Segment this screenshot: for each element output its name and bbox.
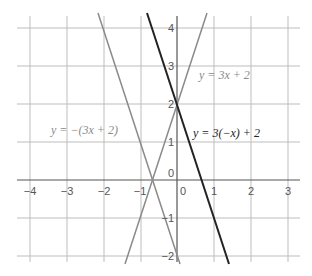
x-tick: 3: [285, 185, 291, 197]
x-tick: −1: [134, 185, 147, 197]
x-tick: −2: [98, 185, 111, 197]
x-tick: 2: [248, 185, 254, 197]
x-tick: 0: [180, 185, 186, 197]
y-tick: −2: [161, 250, 174, 262]
y-tick: 4: [168, 22, 174, 34]
y-tick: 0: [168, 167, 174, 179]
y-tick: −1: [161, 212, 174, 224]
label-y-3x-plus-2: y = 3x + 2: [198, 68, 250, 82]
x-tick: 1: [211, 185, 217, 197]
y-tick: 3: [168, 60, 174, 72]
label-y-neg-3x-plus-2: y = −(3x + 2): [50, 123, 118, 137]
x-tick: −4: [24, 185, 37, 197]
x-tick: −3: [61, 185, 74, 197]
y-tick: 1: [168, 136, 174, 148]
graph-canvas: −4 −3 −2 −1 0 1 2 3 4 3 2 1 0 −1 −2 y = …: [0, 0, 312, 276]
y-tick: 2: [168, 98, 174, 110]
label-y-3-neg-x-plus-2: y = 3(−x) + 2: [192, 126, 260, 140]
